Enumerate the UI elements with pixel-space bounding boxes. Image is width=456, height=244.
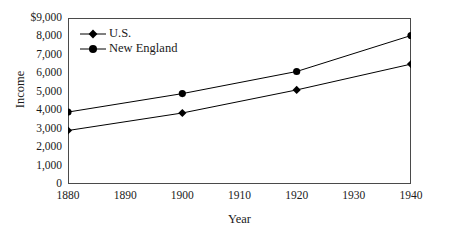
y-axis-tick-labels: 01,0002,0003,0004,0005,0006,0007,0008,00… <box>0 18 62 184</box>
data-point-marker <box>407 32 411 39</box>
series-line-0 <box>68 64 411 130</box>
data-point-marker <box>407 60 411 68</box>
x-axis-tick-label: 1920 <box>285 190 308 202</box>
x-axis-tick-label: 1900 <box>171 190 194 202</box>
y-axis-title: Income <box>13 50 28 130</box>
y-axis-tick-label: 2,000 <box>36 141 62 153</box>
income-line-chart: 01,0002,0003,0004,0005,0006,0007,0008,00… <box>0 0 456 244</box>
legend-item-us: U.S. <box>79 26 177 41</box>
data-point-marker <box>68 126 72 134</box>
data-point-marker <box>293 68 300 75</box>
x-axis-tick-label: 1930 <box>342 190 365 202</box>
y-axis-tick-label: 8,000 <box>36 31 62 43</box>
legend-item-new-england: New England <box>79 41 177 56</box>
data-point-marker <box>178 109 186 117</box>
y-axis-tick-label: 3,000 <box>36 123 62 135</box>
legend: U.S. New England <box>79 26 177 56</box>
legend-label-new-england: New England <box>107 42 177 55</box>
x-axis-title: Year <box>68 212 411 227</box>
legend-marker-circle-icon <box>79 42 107 56</box>
y-axis-tick-label: 1,000 <box>36 160 62 172</box>
y-axis-tick-label: $9,000 <box>30 12 62 24</box>
x-axis-tick-label: 1910 <box>228 190 251 202</box>
y-axis-tick-label: 6,000 <box>36 68 62 80</box>
x-axis-tick-label: 1940 <box>400 190 423 202</box>
y-axis-tick-label: 7,000 <box>36 49 62 61</box>
data-point-marker <box>293 86 301 94</box>
legend-marker-diamond-icon <box>79 27 107 41</box>
x-axis-tick-labels: 1880189019001910192019301940 <box>68 190 411 206</box>
y-axis-tick-label: 5,000 <box>36 86 62 98</box>
data-point-marker <box>179 90 186 97</box>
y-axis-tick-label: 4,000 <box>36 104 62 116</box>
x-axis-tick-label: 1890 <box>114 190 137 202</box>
data-point-marker <box>68 108 72 115</box>
legend-label-us: U.S. <box>107 27 131 40</box>
x-axis-tick-label: 1880 <box>57 190 80 202</box>
